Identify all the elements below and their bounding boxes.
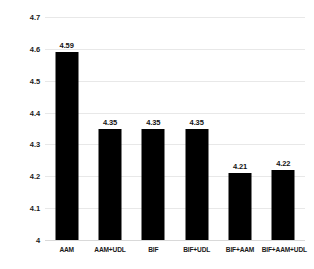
bar-slot: 4.35 <box>175 17 218 240</box>
plot-area: 4.594.354.354.354.214.22 <box>45 17 305 240</box>
bar-value-label: 4.59 <box>60 41 74 50</box>
y-axis-tick-label: 4.5 <box>0 76 40 85</box>
bar-value-label: 4.22 <box>276 159 290 168</box>
x-axis-tick-label: BIF+AAM <box>218 246 261 253</box>
bar[interactable] <box>142 129 165 241</box>
x-axis-tick-label: AAM+UDL <box>88 246 131 253</box>
bar[interactable] <box>98 129 121 241</box>
bar[interactable] <box>228 173 251 240</box>
y-axis-tick-label: 4 <box>0 236 40 245</box>
y-axis-tick-label: 4.2 <box>0 172 40 181</box>
bar[interactable] <box>185 129 208 241</box>
bar-chart: 4.594.354.354.354.214.22 4.74.64.54.44.3… <box>0 0 314 269</box>
bar-slot: 4.21 <box>218 17 261 240</box>
bar-value-label: 4.35 <box>103 118 117 127</box>
bar-value-label: 4.35 <box>190 118 204 127</box>
bar-value-label: 4.21 <box>233 162 247 171</box>
x-axis-tick-label: BIF+UDL <box>175 246 218 253</box>
bar-slot: 4.59 <box>45 17 88 240</box>
y-axis-tick-label: 4.6 <box>0 44 40 53</box>
x-axis-tick-label: BIF+AAM+UDL <box>262 246 305 253</box>
x-axis-tick-label: BIF <box>132 246 175 253</box>
bars-layer: 4.594.354.354.354.214.22 <box>45 17 305 240</box>
gridline <box>45 240 305 241</box>
y-axis-tick-label: 4.4 <box>0 108 40 117</box>
bar[interactable] <box>55 52 78 240</box>
bar[interactable] <box>272 170 295 240</box>
bar-slot: 4.22 <box>262 17 305 240</box>
y-axis-tick-label: 4.1 <box>0 204 40 213</box>
bar-value-label: 4.35 <box>146 118 160 127</box>
x-axis-tick-label: AAM <box>45 246 88 253</box>
y-axis-tick-label: 4.7 <box>0 13 40 22</box>
y-axis-tick-label: 4.3 <box>0 140 40 149</box>
bar-slot: 4.35 <box>88 17 131 240</box>
bar-slot: 4.35 <box>132 17 175 240</box>
